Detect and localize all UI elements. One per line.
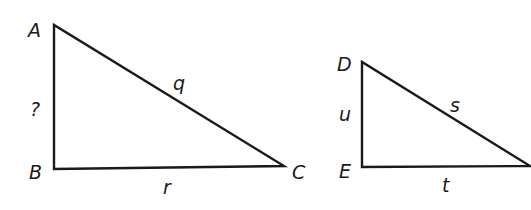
side-label-hypotenuse-s: s xyxy=(450,94,460,116)
diagram-canvas: A ? B q r C D u E s t xyxy=(0,0,531,210)
vertex-label-b: B xyxy=(29,161,42,183)
triangle-def-outline xyxy=(362,62,530,167)
vertex-label-c: C xyxy=(292,161,306,183)
side-label-ac: q xyxy=(173,72,185,94)
side-label-ab: ? xyxy=(30,98,40,120)
side-label-de: u xyxy=(339,103,351,125)
side-label-bc: r xyxy=(163,176,172,198)
triangle-abc-outline xyxy=(54,25,284,169)
side-label-et: t xyxy=(442,174,451,196)
triangle-abc: A ? B q r C xyxy=(26,19,306,198)
triangle-def: D u E s t xyxy=(337,53,530,196)
vertex-label-a: A xyxy=(26,19,41,41)
vertex-label-e: E xyxy=(339,160,351,182)
vertex-label-d: D xyxy=(337,53,352,75)
